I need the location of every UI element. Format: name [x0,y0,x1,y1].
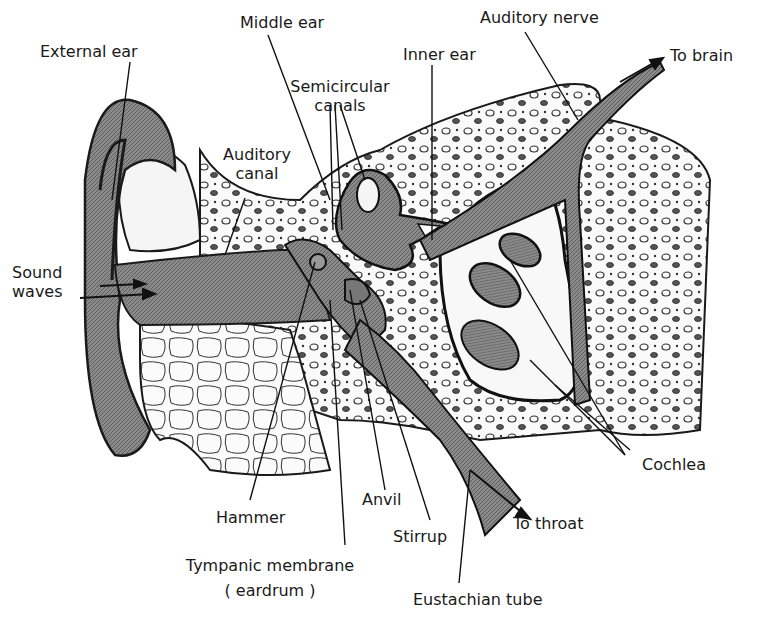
label-sound-waves: Sound waves [12,263,63,301]
label-stirrup: Stirrup [393,527,447,546]
label-hammer: Hammer [216,508,285,527]
label-to-throat: To throat [513,514,583,533]
label-to-brain: To brain [670,46,733,65]
label-auditory-nerve: Auditory nerve [480,8,599,27]
label-middle-ear: Middle ear [240,13,324,32]
label-semicircular-canals: Semicircular canals [290,77,390,115]
label-external-ear: External ear [40,42,138,61]
label-cochlea: Cochlea [642,455,706,474]
label-auditory-canal: Auditory canal [212,145,302,183]
label-eustachian-tube: Eustachian tube [413,590,543,609]
label-tympanic-membrane: Tympanic membrane ( eardrum ) [170,556,370,600]
label-anvil: Anvil [362,490,401,509]
label-inner-ear: Inner ear [403,45,476,64]
